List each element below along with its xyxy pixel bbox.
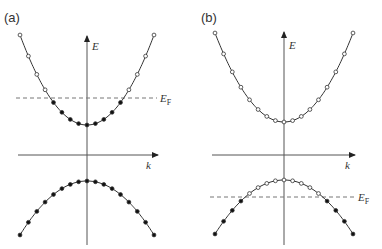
empty-state-dot [35,73,39,77]
occupied-state-dot [110,110,114,114]
empty-state-dot [127,88,131,92]
occupied-state-dot [85,123,89,127]
empty-state-dot [351,31,355,35]
empty-state-dot [308,108,312,112]
empty-state-dot [43,88,47,92]
empty-state-dot [274,179,278,183]
occupied-state-dot [144,220,148,224]
panel-a: (a) E k EF [4,10,172,245]
occupied-state-dot [18,233,22,237]
empty-state-dot [248,192,252,196]
occupied-state-dot [222,219,226,223]
occupied-state-dot [35,210,39,214]
empty-state-dot [213,31,217,35]
occupied-state-dot [60,110,64,114]
occupied-state-dot [68,183,72,187]
empty-state-dot [135,73,139,77]
empty-state-dot [152,33,156,37]
occupied-state-dot [119,101,123,105]
energy-axis-label: E [288,39,296,51]
empty-state-dot [343,52,347,56]
empty-state-dot [27,54,31,58]
empty-state-dot [334,70,338,74]
occupied-state-dot [325,199,329,203]
energy-axis-label: E [91,40,99,52]
empty-state-dot [256,108,260,112]
occupied-state-dot [119,193,123,197]
empty-state-dot [317,192,321,196]
empty-state-dot [230,70,234,74]
occupied-state-dot [68,118,72,122]
k-axis-label: k [345,159,351,171]
occupied-state-dot [52,101,56,105]
empty-state-dot [325,85,329,89]
occupied-state-dot [230,209,234,213]
empty-state-dot [282,120,286,124]
empty-state-dot [18,33,22,37]
occupied-state-dot [52,193,56,197]
panel-b-label: (b) [201,10,217,25]
k-axis-label: k [146,159,152,171]
occupied-state-dot [94,122,98,126]
empty-state-dot [222,52,226,56]
occupied-state-dot [351,232,355,236]
occupied-state-dot [102,183,106,187]
occupied-state-dot [43,200,47,204]
empty-state-dot [308,186,312,190]
empty-state-dot [282,178,286,182]
occupied-state-dot [127,200,131,204]
panel-a-label: (a) [4,10,20,25]
occupied-state-dot [27,220,31,224]
occupied-state-dot [102,118,106,122]
panel-b: (b) E k EF [201,10,370,245]
occupied-state-dot [77,180,81,184]
occupied-state-dot [239,199,243,203]
empty-state-dot [256,186,260,190]
empty-state-dot [317,98,321,102]
occupied-state-dot [213,232,217,236]
fermi-level-label: EF [357,191,370,206]
occupied-state-dot [94,180,98,184]
empty-state-dot [291,119,295,123]
occupied-state-dot [152,233,156,237]
fermi-level-label: EF [159,92,172,107]
occupied-state-dot [110,187,114,191]
occupied-state-dot [343,219,347,223]
band-structure-figure: (a) E k EF (b) E k EF [0,0,382,249]
occupied-state-dot [77,122,81,126]
empty-state-dot [299,182,303,186]
occupied-state-dot [334,209,338,213]
empty-state-dot [144,54,148,58]
occupied-state-dot [85,179,89,183]
empty-state-dot [265,115,269,119]
empty-state-dot [299,115,303,119]
empty-state-dot [265,182,269,186]
occupied-state-dot [60,187,64,191]
empty-state-dot [239,85,243,89]
occupied-state-dot [135,210,139,214]
empty-state-dot [291,179,295,183]
empty-state-dot [274,119,278,123]
empty-state-dot [248,98,252,102]
